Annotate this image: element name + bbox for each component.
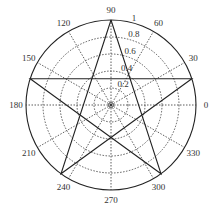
angle-gridline xyxy=(111,105,185,148)
radial-tick-label: 0.4 xyxy=(121,63,133,73)
radial-tick-label: 0.8 xyxy=(128,29,140,39)
angle-tick-label: 210 xyxy=(22,148,36,158)
angle-tick-label: 180 xyxy=(9,100,23,110)
angle-tick-label: 60 xyxy=(154,18,164,28)
angle-tick-label: 300 xyxy=(152,182,166,192)
radial-tick-label: 0.2 xyxy=(118,79,129,89)
angle-tick-label: 30 xyxy=(189,53,199,63)
angle-tick-label: 120 xyxy=(57,18,71,28)
angle-gridline xyxy=(37,105,111,148)
angle-tick-label: 240 xyxy=(57,182,71,192)
angle-tick-label: 270 xyxy=(104,195,118,205)
polar-chart: 03060901201501802102402703003300.20.40.6… xyxy=(0,0,211,206)
angle-tick-label: 330 xyxy=(187,148,201,158)
angle-gridline xyxy=(37,63,111,106)
angle-tick-label: 0 xyxy=(204,100,209,110)
polar-grid xyxy=(26,20,196,190)
angle-gridline xyxy=(69,31,112,105)
radial-tick-label: 0.6 xyxy=(125,46,137,56)
angle-tick-label: 90 xyxy=(107,5,117,15)
angle-tick-label: 150 xyxy=(22,53,36,63)
radial-tick-label: 1 xyxy=(132,13,137,23)
